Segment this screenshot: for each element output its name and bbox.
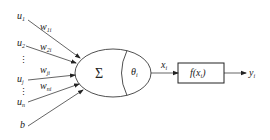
input-uj: uj bbox=[17, 73, 24, 85]
arrow-b bbox=[28, 90, 83, 126]
weight-wni: wni bbox=[40, 80, 52, 92]
net-input-label: xi bbox=[160, 59, 167, 71]
threshold-label: θi bbox=[131, 66, 138, 78]
input-u1: u1 bbox=[17, 10, 25, 22]
input-b: b bbox=[20, 119, 25, 130]
summation-symbol: Σ bbox=[95, 66, 103, 81]
neuron-diagram: u1 u2 ⋮ uj ⋮ un b w1i w2i wji wni Σ θi x… bbox=[0, 0, 270, 140]
input-un: un bbox=[17, 96, 25, 108]
weight-w2i: w2i bbox=[40, 41, 52, 53]
neuron-body bbox=[75, 49, 151, 97]
arrow-u1 bbox=[28, 20, 80, 58]
weight-w1i: w1i bbox=[40, 21, 52, 33]
input-arrows bbox=[26, 20, 83, 126]
neuron-divider bbox=[122, 51, 128, 96]
arrow-uj bbox=[28, 75, 75, 80]
input-u2: u2 bbox=[17, 37, 25, 49]
output-label: yi bbox=[248, 67, 255, 79]
ellipsis-top: ⋮ bbox=[19, 55, 28, 65]
weight-wji: wji bbox=[40, 64, 50, 76]
activation-label: f(xi) bbox=[190, 67, 206, 79]
arrow-un bbox=[28, 84, 79, 102]
